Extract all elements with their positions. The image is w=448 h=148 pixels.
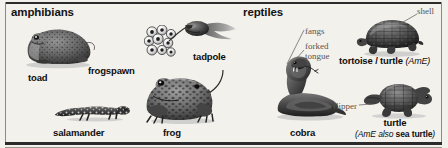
callout-forked-tongue-line2: tongue — [305, 51, 330, 61]
callout-fangs: fangs — [305, 26, 325, 36]
callout-shell: shell — [417, 6, 434, 16]
label-frogspawn: frogspawn — [88, 65, 135, 76]
label-tortoise-turtle-variant: (AmE) — [405, 56, 430, 66]
label-toad: toad — [28, 72, 47, 83]
tadpole-illustration — [184, 18, 240, 44]
bottom-rule-thin — [5, 147, 442, 148]
label-turtle-variant-suffix: ) — [432, 129, 435, 139]
callout-flipper: flipper — [333, 101, 357, 111]
section-heading-reptiles: reptiles — [243, 6, 283, 18]
section-heading-amphibians: amphibians — [11, 6, 74, 18]
label-frog: frog — [163, 127, 181, 138]
label-cobra: cobra — [290, 127, 315, 138]
callout-forked-tongue-line1: forked — [305, 41, 329, 51]
label-turtle: turtle (AmE also sea turtle) — [347, 118, 443, 139]
top-rule — [5, 2, 442, 4]
label-turtle-variant-prefix: (AmE also — [355, 129, 396, 139]
illustration-page: amphibians reptiles — [0, 0, 448, 148]
label-tortoise-turtle-main: tortoise / turtle — [339, 55, 405, 66]
frog-illustration — [143, 66, 219, 126]
label-tortoise-turtle: tortoise / turtle (AmE) — [339, 55, 430, 66]
cobra-illustration — [272, 55, 348, 123]
tortoise-illustration — [356, 14, 426, 58]
sea-turtle-illustration — [363, 78, 435, 120]
salamander-illustration — [53, 96, 131, 122]
frogspawn-illustration — [144, 25, 180, 59]
left-edge-rule — [5, 2, 6, 145]
label-tadpole: tadpole — [193, 51, 226, 62]
label-turtle-main: turtle — [384, 117, 407, 128]
bottom-rule — [5, 142, 442, 145]
label-turtle-variant-bold: sea turtle — [396, 129, 433, 139]
toad-illustration — [16, 21, 100, 69]
label-salamander: salamander — [53, 127, 104, 138]
